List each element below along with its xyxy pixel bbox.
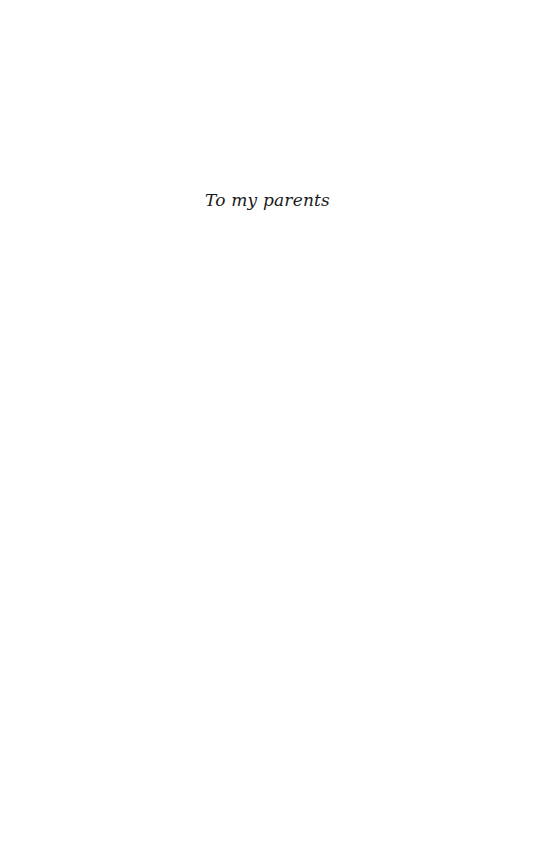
dedication-text: To my parents xyxy=(0,190,535,210)
document-page: To my parents xyxy=(0,0,535,863)
